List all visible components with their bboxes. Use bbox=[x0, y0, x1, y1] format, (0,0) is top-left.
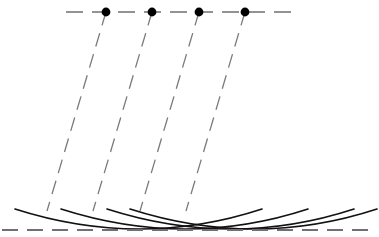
diagram-canvas bbox=[0, 0, 379, 237]
wavefront-diagram bbox=[0, 0, 379, 237]
source-point-2 bbox=[148, 8, 157, 17]
source-point-1 bbox=[102, 8, 111, 17]
source-point-3 bbox=[195, 8, 204, 17]
source-point-4 bbox=[241, 8, 250, 17]
background-rect bbox=[0, 0, 379, 237]
